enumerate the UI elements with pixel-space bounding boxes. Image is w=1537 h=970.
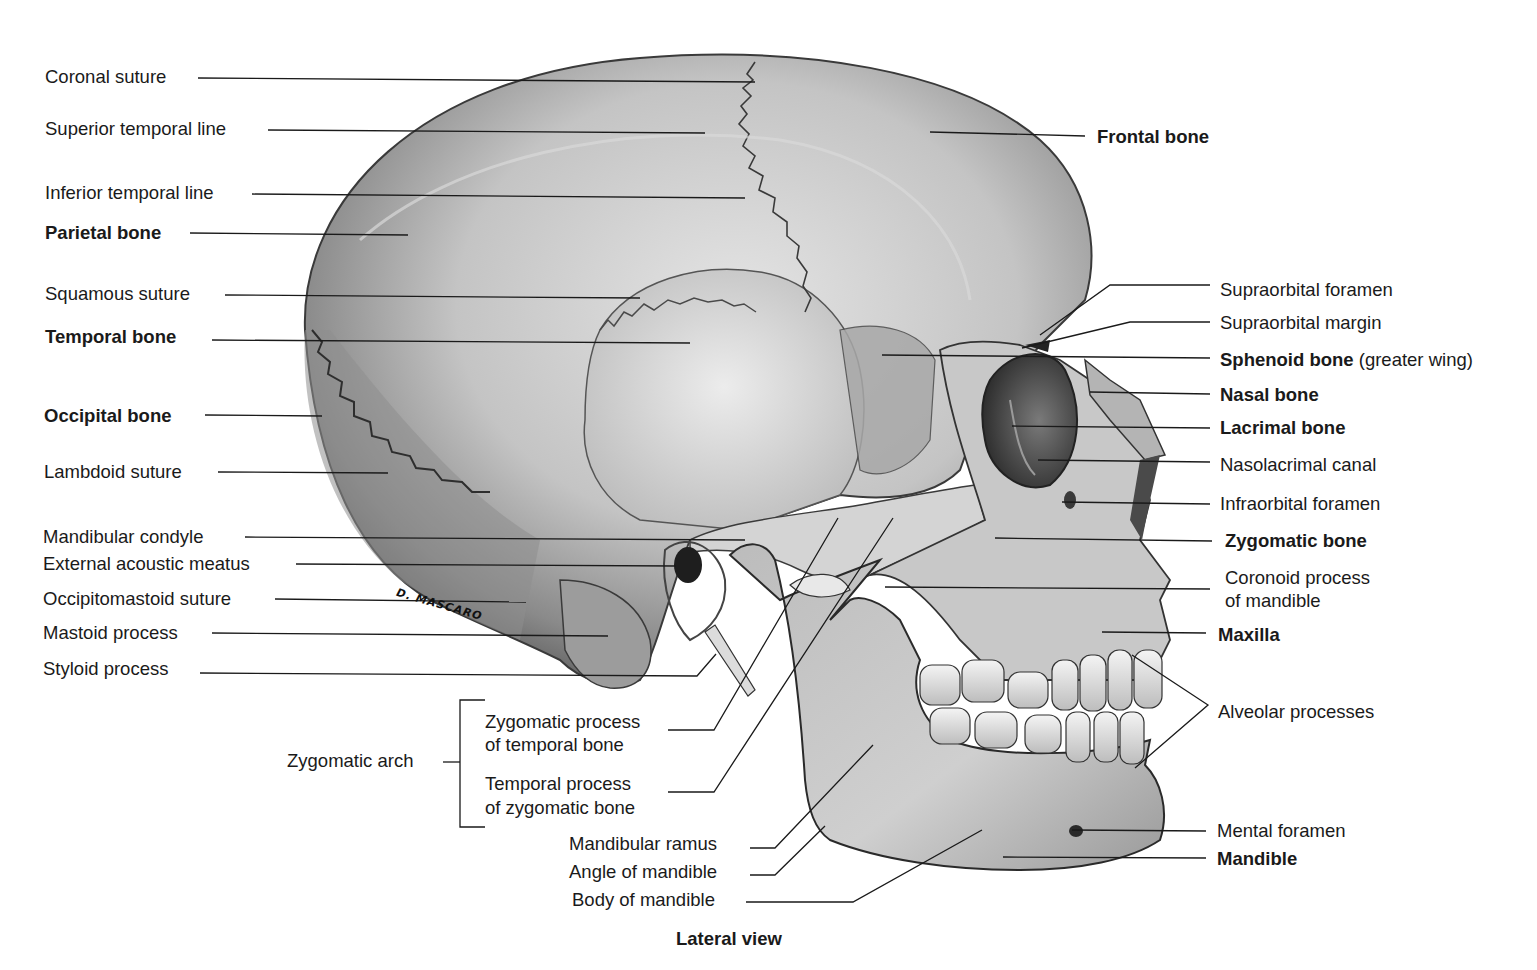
label-mental-foramen: Mental foramen <box>1217 820 1346 842</box>
label-mandible: Mandible <box>1217 848 1297 870</box>
label-external-acoustic-meatus: External acoustic meatus <box>43 553 250 575</box>
label-lambdoid-suture: Lambdoid suture <box>44 461 182 483</box>
label-coronal-suture: Coronal suture <box>45 66 166 88</box>
label-nasolacrimal-canal: Nasolacrimal canal <box>1220 454 1376 476</box>
label-supraorbital-foramen: Supraorbital foramen <box>1220 279 1393 301</box>
label-angle-of-mandible: Angle of mandible <box>569 861 717 883</box>
label-mandibular-ramus: Mandibular ramus <box>569 833 717 855</box>
label-lacrimal-bone: Lacrimal bone <box>1220 417 1345 439</box>
label-body-of-mandible: Body of mandible <box>572 889 715 911</box>
label-squamous-suture: Squamous suture <box>45 283 190 305</box>
label-coronoid-process-line1: Coronoid process <box>1225 567 1370 589</box>
label-styloid-process: Styloid process <box>43 658 168 680</box>
label-occipitomastoid-suture: Occipitomastoid suture <box>43 588 231 610</box>
label-temporal-process-line2: of zygomatic bone <box>485 797 635 819</box>
label-frontal-bone: Frontal bone <box>1097 126 1209 148</box>
label-zygomatic-process-line1: Zygomatic process <box>485 711 640 733</box>
label-inferior-temporal-line: Inferior temporal line <box>45 182 214 204</box>
label-zygomatic-arch: Zygomatic arch <box>287 750 413 772</box>
label-alveolar-processes: Alveolar processes <box>1218 701 1374 723</box>
label-mandibular-condyle: Mandibular condyle <box>43 526 203 548</box>
label-temporal-bone: Temporal bone <box>45 326 176 348</box>
label-temporal-process-line1: Temporal process <box>485 773 631 795</box>
figure-caption: Lateral view <box>676 928 782 950</box>
label-occipital-bone: Occipital bone <box>44 405 171 427</box>
label-zygomatic-bone: Zygomatic bone <box>1225 530 1367 552</box>
label-infraorbital-foramen: Infraorbital foramen <box>1220 493 1380 515</box>
label-nasal-bone: Nasal bone <box>1220 384 1319 406</box>
label-sphenoid-bone-name: Sphenoid bone <box>1220 349 1354 370</box>
label-mastoid-process: Mastoid process <box>43 622 178 644</box>
label-maxilla: Maxilla <box>1218 624 1280 646</box>
label-parietal-bone: Parietal bone <box>45 222 161 244</box>
label-sphenoid-bone: Sphenoid bone (greater wing) <box>1220 349 1473 371</box>
label-zygomatic-process-line2: of temporal bone <box>485 734 624 756</box>
label-sphenoid-bone-qualifier: (greater wing) <box>1359 349 1473 370</box>
label-supraorbital-margin: Supraorbital margin <box>1220 312 1381 334</box>
label-superior-temporal-line: Superior temporal line <box>45 118 226 140</box>
label-coronoid-process-line2: of mandible <box>1225 590 1321 612</box>
skull-lateral-view-figure: Coronal suture Superior temporal line In… <box>0 0 1537 970</box>
